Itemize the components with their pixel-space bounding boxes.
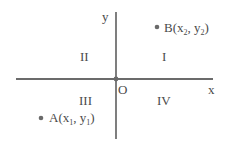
quadrant-ii-label: II [80,50,89,63]
point-b-name: B [164,20,173,35]
point-b-y-sub: 2 [201,28,205,37]
point-b-x-sub: 2 [184,28,188,37]
origin-label: O [118,83,127,96]
point-a-y-sub: 1 [86,118,90,127]
point-b-label: B(x2, y2) [164,21,209,39]
quadrant-i-label: I [162,50,166,63]
y-axis-label: y [102,10,109,23]
quadrant-iii-label: III [79,94,92,107]
point-a-x-sub: 1 [69,118,73,127]
point-a-label: A(x1, y1) [49,111,95,129]
quadrant-iv-label: IV [157,94,171,107]
x-axis-label: x [208,83,215,96]
point-b-marker [155,25,160,30]
point-a-marker [39,116,44,121]
origin-point [114,77,119,82]
point-a-name: A [49,110,58,125]
